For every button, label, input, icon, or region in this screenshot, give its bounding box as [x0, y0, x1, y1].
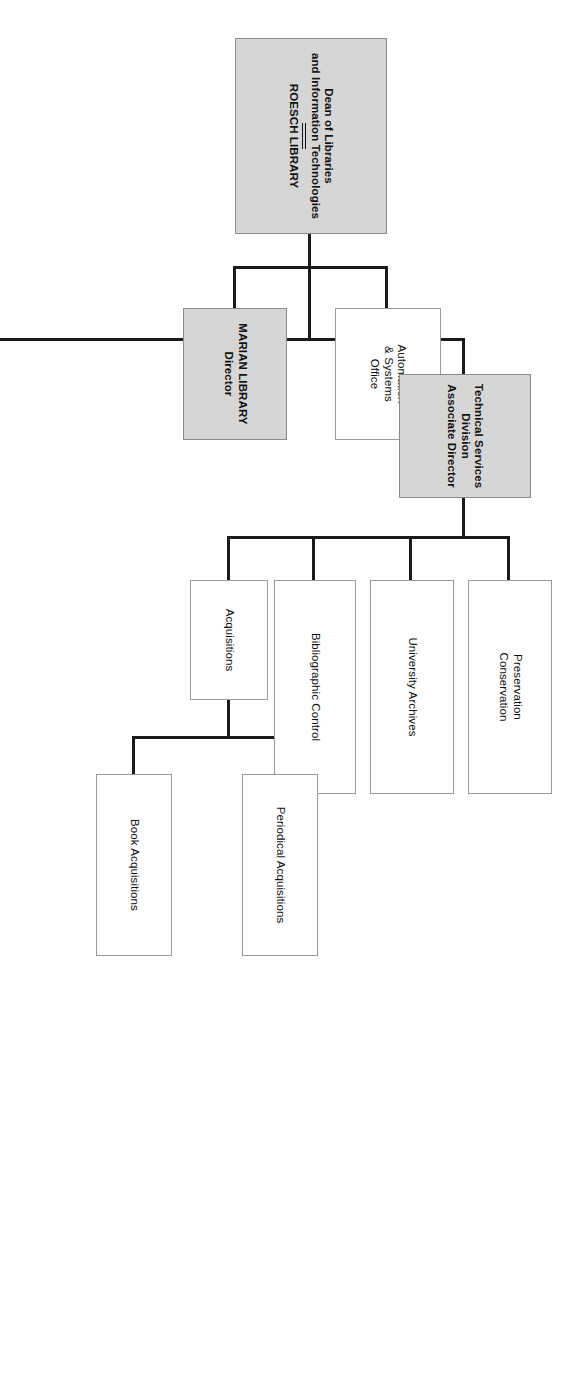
node-preservation-conservation[interactable]: Preservation Conservation	[468, 580, 552, 794]
node-acquisitions-line1: Acquisitions	[222, 584, 236, 696]
connector-to-technical-services	[463, 338, 466, 374]
connector-acquisitions-children-spine	[133, 736, 279, 739]
node-technical-services-division[interactable]: Technical Services Division Associate Di…	[399, 374, 531, 498]
double-rule-divider	[302, 123, 306, 149]
connector-to-bibliographic-control	[313, 536, 316, 580]
node-marian-line1: MARIAN LIBRARY	[235, 312, 249, 436]
node-university-archives[interactable]: University Archives	[370, 580, 454, 794]
connector-dean-marian	[234, 266, 237, 308]
connector-to-preservation	[508, 536, 511, 580]
node-dean-line2: and Information Technologies	[308, 42, 322, 230]
connector-acquisitions-stub	[228, 700, 231, 738]
node-bibliographic-control-line1: Bibliographic Control	[308, 584, 322, 790]
connector-to-acquisitions	[228, 536, 231, 580]
node-periodical-acquisitions[interactable]: Periodical Acquisitions	[242, 774, 318, 956]
connector-to-university-archives	[410, 536, 413, 580]
connector-dean-stub	[309, 232, 312, 268]
node-book-acquisitions[interactable]: Book Acquisitions	[96, 774, 172, 956]
node-preservation-line2: Conservation	[496, 584, 510, 790]
connector-to-book-acquisitions	[133, 736, 136, 774]
node-marian-library[interactable]: MARIAN LIBRARY Director	[183, 308, 287, 440]
node-preservation-line1: Preservation	[510, 584, 524, 790]
node-automation-line2: & Systems	[381, 312, 395, 436]
node-book-acquisitions-line1: Book Acquisitions	[127, 778, 141, 952]
node-technical-services-line2: Division	[458, 378, 472, 494]
connector-dean-divisions-stub	[309, 266, 312, 340]
org-chart: Dean of Libraries and Information Techno…	[0, 0, 564, 1395]
connector-dean-automation	[386, 266, 389, 308]
node-dean[interactable]: Dean of Libraries and Information Techno…	[235, 38, 387, 234]
connector-technical-services-stub	[463, 498, 466, 538]
node-university-archives-line1: University Archives	[405, 584, 419, 790]
node-acquisitions[interactable]: Acquisitions	[190, 580, 268, 700]
node-automation-line3: Office	[368, 312, 382, 436]
node-periodical-acquisitions-line1: Periodical Acquisitions	[273, 778, 287, 952]
node-dean-line1: Dean of Libraries	[322, 42, 336, 230]
node-technical-services-line1: Technical Services	[472, 378, 486, 494]
node-dean-line3: ROESCH LIBRARY	[287, 42, 301, 230]
connector-technical-children-spine	[228, 536, 509, 539]
node-marian-line2: Director	[221, 312, 235, 436]
node-technical-services-line3: Associate Director	[445, 378, 459, 494]
node-bibliographic-control[interactable]: Bibliographic Control	[274, 580, 356, 794]
